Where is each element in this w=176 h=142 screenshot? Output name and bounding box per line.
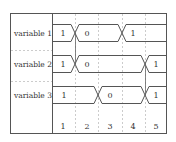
segment-value: 1 [153,60,158,69]
timing-diagram: variable 1 variable 2 variable 3 1 0 1 1… [0,0,176,142]
segment-value: 1 [130,29,135,38]
signal-label-variable-1: variable 1 [13,29,52,38]
segment-value: 1 [61,91,66,100]
waveform-variable-1-top [53,25,166,42]
time-label: 3 [107,122,112,131]
segment-value: 0 [84,60,89,69]
signal-label-variable-3: variable 3 [13,91,52,100]
waveform-variable-2-top [53,56,166,73]
time-label: 2 [84,122,89,131]
time-label: 1 [60,122,65,131]
segment-value: 1 [60,29,65,38]
segment-value: 1 [60,60,65,69]
segment-value: 0 [107,91,112,100]
signal-label-variable-2: variable 2 [13,60,52,69]
time-label: 5 [153,122,158,131]
waveform-variable-2-bottom [53,56,166,73]
segment-value: 1 [153,91,158,100]
waveform-variable-1-bottom [53,25,166,42]
segment-value: 0 [84,29,89,38]
time-label: 4 [130,122,135,131]
